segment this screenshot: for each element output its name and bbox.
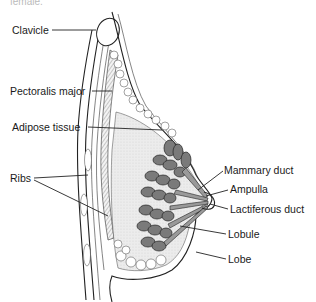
- breast-anatomy-diagram: female.: [0, 0, 316, 302]
- label-ribs: Ribs: [10, 172, 31, 184]
- label-adipose-tissue: Adipose tissue: [12, 121, 80, 133]
- label-lactiferous-duct: Lactiferous duct: [230, 203, 304, 215]
- label-clavicle: Clavicle: [12, 24, 49, 36]
- label-lobule: Lobule: [228, 228, 260, 240]
- caption-fragment: female.: [10, 0, 43, 7]
- label-mammary-duct: Mammary duct: [224, 164, 294, 176]
- label-lobe: Lobe: [228, 253, 252, 265]
- label-pectoralis-major: Pectoralis major: [10, 85, 86, 97]
- label-ampulla: Ampulla: [230, 183, 268, 195]
